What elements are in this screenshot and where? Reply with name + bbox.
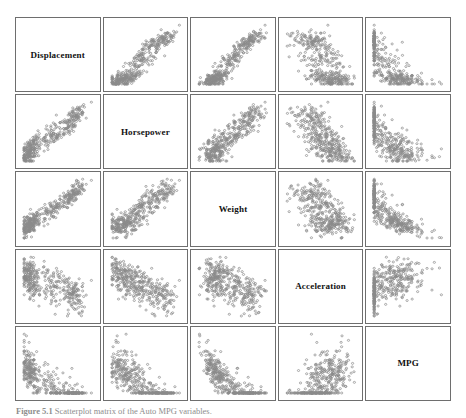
data-point [327, 121, 329, 123]
data-point [337, 363, 339, 365]
data-point [172, 34, 174, 36]
data-point [330, 131, 332, 133]
data-point [256, 119, 258, 121]
data-point [83, 104, 85, 106]
data-point [81, 305, 83, 307]
data-point [144, 192, 146, 194]
data-point [322, 160, 324, 162]
data-point [203, 83, 205, 85]
data-point [170, 290, 172, 292]
data-point [348, 150, 350, 152]
data-point [121, 381, 123, 383]
data-point [288, 56, 290, 58]
data-point [232, 68, 234, 70]
data-point [286, 33, 288, 35]
data-point [238, 128, 240, 130]
data-point [198, 83, 200, 85]
data-point [74, 308, 76, 310]
data-point [90, 392, 92, 394]
data-point [241, 388, 243, 390]
data-point [145, 309, 147, 311]
data-point [111, 381, 113, 383]
data-point [35, 385, 37, 387]
data-point [396, 259, 398, 261]
data-point [129, 286, 131, 288]
data-point [232, 300, 234, 302]
data-point [253, 302, 255, 304]
data-point [83, 106, 85, 108]
data-point [212, 266, 214, 268]
splom-scatter-cell-horsepower-vs-weight [190, 94, 276, 169]
data-point-group [23, 333, 92, 394]
data-point [231, 276, 233, 278]
data-point [117, 371, 119, 373]
data-point [257, 289, 259, 291]
data-point [148, 389, 150, 391]
data-point [23, 346, 25, 348]
data-point [113, 357, 115, 359]
data-point [48, 276, 50, 278]
data-point [388, 291, 390, 293]
data-point [214, 350, 216, 352]
data-point [47, 144, 49, 146]
data-point [318, 375, 320, 377]
data-point [347, 339, 349, 341]
data-point [288, 44, 290, 46]
data-point [264, 101, 266, 103]
data-point [245, 385, 247, 387]
data-point [388, 59, 390, 61]
data-point [233, 266, 235, 268]
data-point [384, 148, 386, 150]
data-point [32, 299, 34, 301]
data-point [250, 389, 252, 391]
data-point [340, 341, 342, 343]
data-point [205, 275, 207, 277]
data-point [45, 295, 47, 297]
data-point [252, 104, 254, 106]
data-point [69, 384, 71, 386]
data-point [64, 282, 66, 284]
data-point [151, 312, 153, 314]
data-point-group [198, 333, 267, 394]
data-point [254, 116, 256, 118]
data-point [381, 61, 383, 63]
data-point [327, 230, 329, 232]
data-point [60, 270, 62, 272]
data-point [416, 154, 418, 156]
data-point [249, 314, 251, 316]
data-point [116, 335, 118, 337]
data-point [293, 39, 295, 41]
data-point [296, 30, 298, 32]
data-point [395, 298, 397, 300]
data-point [340, 346, 342, 348]
data-point [23, 234, 25, 236]
data-point [310, 192, 312, 194]
scatter-plot-area [366, 250, 450, 323]
data-point [398, 268, 400, 270]
data-point [353, 381, 355, 383]
data-point [229, 281, 231, 283]
data-point [65, 290, 67, 292]
data-point [29, 296, 31, 298]
data-point [59, 299, 61, 301]
data-point [328, 381, 330, 383]
scatter-plot-area [279, 18, 363, 91]
data-point [64, 293, 66, 295]
data-point [148, 367, 150, 369]
data-point [29, 213, 31, 215]
data-point [243, 134, 245, 136]
data-point [314, 354, 316, 356]
data-point [32, 268, 34, 270]
data-point [388, 70, 390, 72]
data-point [286, 201, 288, 203]
data-point [321, 129, 323, 131]
data-point [139, 224, 141, 226]
data-point [403, 294, 405, 296]
data-point [244, 382, 246, 384]
data-point [313, 210, 315, 212]
data-point [140, 199, 142, 201]
data-point [125, 354, 127, 356]
scatter-plot-area [104, 172, 188, 245]
data-point [303, 120, 305, 122]
data-point [319, 48, 321, 50]
